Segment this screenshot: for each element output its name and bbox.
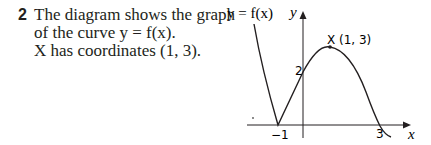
x-tick-neg1: −1 [271, 128, 289, 142]
curve-diagram: y = f(x) y x X (1, 3) 2 −1 3 [0, 0, 431, 145]
y-axis-arrow-icon [300, 11, 307, 19]
y-intercept-label: 2 [295, 64, 303, 78]
x-axis-label: x [407, 126, 415, 142]
point-x-label: X (1, 3) [327, 33, 371, 47]
curve-label: y = f(x) [227, 5, 273, 22]
x-tick-3: 3 [376, 127, 384, 141]
speck [252, 117, 254, 119]
y-axis-label: y [288, 4, 297, 20]
